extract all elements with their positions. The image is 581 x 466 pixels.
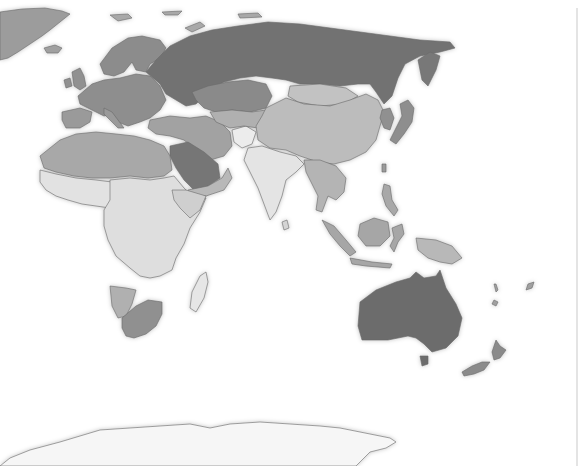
region-iberia[interactable]	[62, 108, 92, 128]
region-japan[interactable]	[390, 100, 414, 144]
region-southeast-asia[interactable]	[304, 160, 346, 212]
region-tasmania[interactable]	[420, 356, 428, 366]
region-north-africa[interactable]	[40, 132, 172, 178]
region-new-zealand[interactable]	[462, 340, 506, 376]
region-uk[interactable]	[64, 68, 86, 90]
region-kamchatka[interactable]	[418, 52, 440, 86]
region-iceland[interactable]	[44, 45, 62, 53]
region-madagascar[interactable]	[190, 272, 208, 312]
map-frame-edge	[576, 8, 578, 466]
region-europe[interactable]	[78, 74, 166, 126]
region-pacific-islands[interactable]	[492, 282, 534, 306]
region-korea[interactable]	[380, 108, 394, 130]
region-taiwan[interactable]	[382, 164, 386, 172]
region-india[interactable]	[244, 146, 304, 220]
region-afghanistan[interactable]	[232, 126, 256, 148]
region-indonesia[interactable]	[322, 218, 404, 268]
region-antarctica[interactable]	[0, 422, 396, 466]
region-philippines[interactable]	[382, 184, 398, 216]
region-sri-lanka[interactable]	[282, 220, 289, 230]
region-australia[interactable]	[358, 270, 462, 352]
world-map[interactable]	[0, 0, 581, 466]
region-new-guinea[interactable]	[416, 238, 462, 264]
region-greenland[interactable]	[0, 8, 70, 60]
